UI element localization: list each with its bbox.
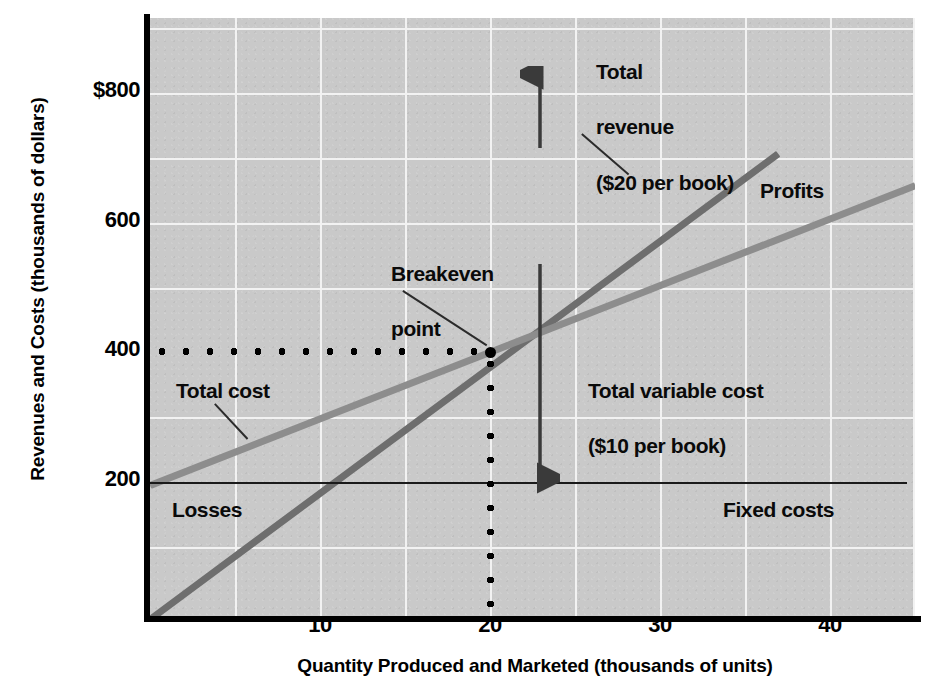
gridline-v-40 [830,18,832,618]
breakeven-chart-figure: Revenues and Costs (thousands of dollars… [0,0,933,680]
gridline-v-5 [235,18,237,618]
annotation-total-variable-cost: Total variable cost ($10 per book) [588,349,763,488]
y-axis-title: Revenues and Costs (thousands of dollars… [27,54,49,524]
gridline-h-900 [150,28,915,30]
annotation-total-cost: Total cost [176,377,270,405]
annotation-profits: Profits [760,177,824,205]
annotation-total-revenue: Total revenue ($20 per book) [596,30,734,224]
total-cost-leader-line [214,403,248,439]
annotation-losses: Losses [172,496,242,524]
plot-area [150,18,915,618]
annotation-fixed-costs: Fixed costs [723,496,834,524]
x-axis-title: Quantity Produced and Marketed (thousand… [150,655,920,677]
gridline-v-45 [913,18,915,618]
gridline-h-100 [150,547,915,549]
gridline-v-35 [745,18,747,618]
y-axis-spine [144,14,150,622]
gridline-v-10 [320,18,322,618]
annotation-breakeven-point: Breakeven point [391,232,494,371]
breakeven-vertical-guide [487,352,494,614]
x-axis-spine [144,616,921,622]
total-variable-cost-arrow [520,66,560,496]
